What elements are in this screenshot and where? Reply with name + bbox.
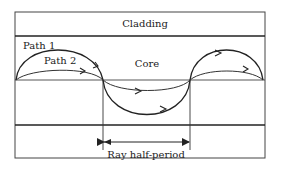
ray-path-diagram: Cladding Core Path 1 Path 2 Ray half-per… xyxy=(0,0,290,177)
half-period-label: Ray half-period xyxy=(107,149,185,160)
arrow-head-left-icon xyxy=(104,139,111,145)
path1-arc-3 xyxy=(190,50,263,80)
path2-arc-3 xyxy=(190,71,263,80)
path2-arc-2 xyxy=(103,80,190,91)
cladding-label: Cladding xyxy=(122,18,168,29)
diagram-frame xyxy=(15,12,265,158)
core-label: Core xyxy=(135,58,159,69)
arrow-icon xyxy=(135,88,141,94)
arrow-icon xyxy=(243,66,248,72)
direction-arrow-icons xyxy=(80,50,248,112)
path1-label: Path 1 xyxy=(23,40,55,51)
path1-arc-2 xyxy=(103,80,190,115)
path2-arc-1 xyxy=(16,70,103,80)
path2-label: Path 2 xyxy=(44,55,76,66)
